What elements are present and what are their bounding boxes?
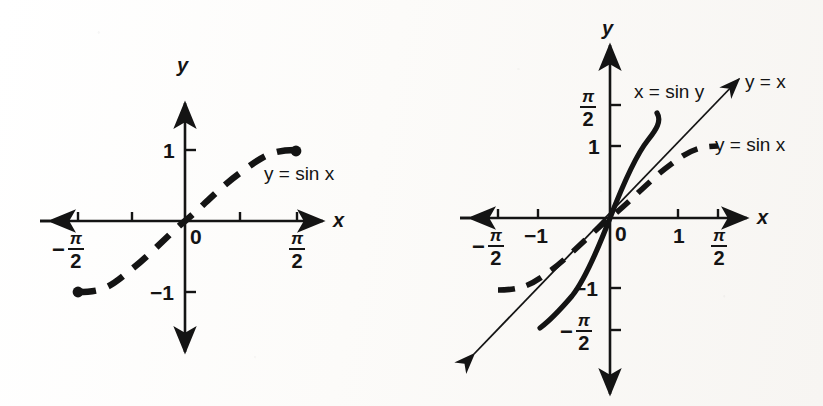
right-x-tick-label-1: 1	[673, 225, 685, 246]
left-endpoint-dot-end	[291, 146, 302, 157]
minus-sign: −	[560, 321, 573, 343]
fraction-numerator-pi: π	[289, 230, 305, 248]
right-graph-svg	[412, 0, 823, 406]
right-y-equals-x-line	[474, 79, 739, 354]
right-y-tick-label-pi-over-2: π 2	[580, 88, 596, 129]
fraction-numerator-pi: π	[580, 88, 596, 106]
right-x-tick-label-neg-1: −1	[524, 225, 548, 246]
fraction-pi-over-2: π 2	[711, 227, 727, 268]
fraction-denominator-2: 2	[713, 247, 724, 268]
fraction-numerator-pi: π	[711, 227, 727, 245]
minus-sign: −	[52, 239, 65, 261]
left-curve-label-y-equals-sin-x: y = sin x	[264, 164, 334, 183]
left-x-tick-label-pi-over-2: π 2	[289, 230, 305, 271]
left-x-axis	[40, 212, 323, 221]
right-origin-label: 0	[615, 223, 627, 244]
fraction-pi-over-2: π 2	[488, 227, 504, 268]
right-y-tick-label-neg-1: −1	[574, 278, 598, 299]
right-y-tick-label-1: 1	[588, 136, 600, 157]
right-graph-panel: y x 0 1 −1 π 2 − π 2 − π 2	[412, 0, 823, 406]
fraction-denominator-2: 2	[582, 108, 593, 129]
right-x-tick-label-neg-pi-over-2: − π 2	[472, 227, 504, 268]
right-x-tick-label-pi-over-2: π 2	[711, 227, 727, 268]
fraction-pi-over-2: π 2	[289, 230, 305, 271]
fraction-numerator-pi: π	[488, 227, 504, 245]
right-line-y-equals-x	[474, 79, 739, 354]
left-origin-label: 0	[190, 226, 202, 247]
left-graph-svg	[0, 0, 412, 406]
left-y-axis-label: y	[177, 55, 188, 75]
fraction-numerator-pi: π	[576, 312, 592, 330]
fraction-pi-over-2: π 2	[68, 230, 84, 271]
left-x-tick-label-neg-pi-over-2: − π 2	[52, 230, 84, 271]
left-y-tick-label-1: 1	[163, 140, 175, 161]
right-x-axis-label: x	[757, 207, 768, 227]
right-x-axis	[460, 209, 747, 218]
left-y-tick-label-neg-1: −1	[150, 282, 174, 303]
right-y-axis-label: y	[602, 18, 613, 38]
fraction-denominator-2: 2	[490, 247, 501, 268]
fraction-pi-over-2: π 2	[576, 312, 592, 353]
left-x-axis-label: x	[333, 210, 344, 230]
right-curve-label-y-equals-sin-x: y = sin x	[715, 135, 785, 154]
left-endpoint-dot-start	[73, 287, 84, 298]
minus-sign: −	[472, 236, 485, 258]
fraction-pi-over-2: π 2	[580, 88, 596, 129]
right-y-tick-label-neg-pi-over-2: − π 2	[560, 312, 592, 353]
fraction-denominator-2: 2	[291, 250, 302, 271]
left-graph-panel: y x 0 1 −1 − π 2 π 2 y = sin x	[0, 0, 412, 406]
right-curve-label-x-equals-sin-y: x = sin y	[634, 82, 704, 101]
right-curve-label-y-equals-x: y = x	[745, 72, 786, 91]
fraction-denominator-2: 2	[70, 250, 81, 271]
fraction-numerator-pi: π	[68, 230, 84, 248]
figure-page: y x 0 1 −1 − π 2 π 2 y = sin x	[0, 0, 823, 406]
fraction-denominator-2: 2	[578, 332, 589, 353]
